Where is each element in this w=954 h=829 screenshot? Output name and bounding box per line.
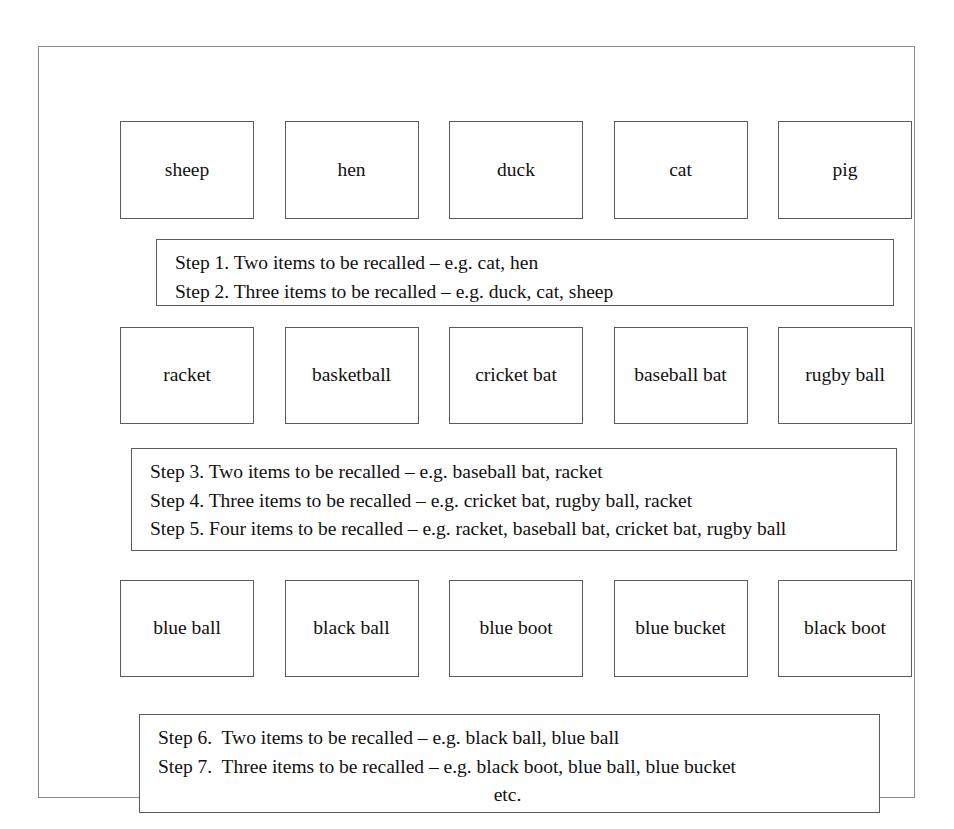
step-line: Step 2. Three items to be recalled – e.g… xyxy=(175,278,893,307)
step-lines: Step 6. Two items to be recalled – e.g. … xyxy=(140,715,879,819)
word-card: rugby ball xyxy=(778,327,912,424)
word-card: blue boot xyxy=(449,580,583,677)
step-box-steps-6-7: Step 6. Two items to be recalled – e.g. … xyxy=(139,714,880,813)
word-card: cat xyxy=(614,121,748,219)
word-card: pig xyxy=(778,121,912,219)
word-card: sheep xyxy=(120,121,254,219)
step-line: Step 7. Three items to be recalled – e.g… xyxy=(158,753,879,782)
word-card: blue bucket xyxy=(614,580,748,677)
step-line: Step 1. Two items to be recalled – e.g. … xyxy=(175,249,893,278)
step-line-etc: etc. xyxy=(158,781,879,810)
word-card: hen xyxy=(285,121,419,219)
word-card-row-objects: blue ball black ball blue boot blue buck… xyxy=(120,580,912,677)
step-box-steps-3-5: Step 3. Two items to be recalled – e.g. … xyxy=(131,448,897,551)
outer-frame-border: sheep hen duck cat pig Step 1. Two items… xyxy=(38,46,915,798)
step-lines: Step 1. Two items to be recalled – e.g. … xyxy=(157,240,893,315)
figure-page: sheep hen duck cat pig Step 1. Two items… xyxy=(0,0,954,829)
word-card: black boot xyxy=(778,580,912,677)
word-card: cricket bat xyxy=(449,327,583,424)
step-line: Step 6. Two items to be recalled – e.g. … xyxy=(158,724,879,753)
word-card: basketball xyxy=(285,327,419,424)
word-card: racket xyxy=(120,327,254,424)
word-card: blue ball xyxy=(120,580,254,677)
word-card: black ball xyxy=(285,580,419,677)
word-card: duck xyxy=(449,121,583,219)
word-card-row-sports: racket basketball cricket bat baseball b… xyxy=(120,327,912,424)
step-line: Step 5. Four items to be recalled – e.g.… xyxy=(150,515,896,544)
step-line: Step 3. Two items to be recalled – e.g. … xyxy=(150,458,896,487)
step-line: Step 4. Three items to be recalled – e.g… xyxy=(150,487,896,516)
word-card: baseball bat xyxy=(614,327,748,424)
step-lines: Step 3. Two items to be recalled – e.g. … xyxy=(132,449,896,553)
step-box-steps-1-2: Step 1. Two items to be recalled – e.g. … xyxy=(156,239,894,306)
word-card-row-animals: sheep hen duck cat pig xyxy=(120,121,912,219)
